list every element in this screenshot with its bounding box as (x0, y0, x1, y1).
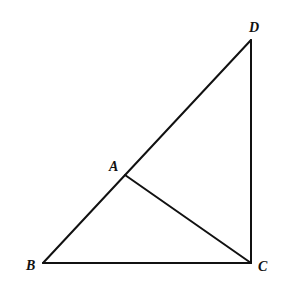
label-point-b: B (25, 258, 35, 273)
segment-ac (125, 175, 251, 263)
segment-bd (43, 40, 251, 263)
label-point-c: C (258, 259, 268, 274)
point-labels: D A B C (25, 20, 268, 274)
label-point-a: A (108, 159, 118, 174)
label-point-d: D (248, 20, 259, 35)
segments (43, 40, 251, 263)
geometry-diagram: D A B C (0, 0, 289, 305)
